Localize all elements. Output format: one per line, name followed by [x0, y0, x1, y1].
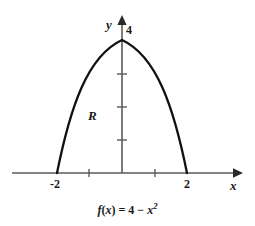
- function-minus-sign: −: [134, 203, 147, 217]
- x-tick-label-2: 2: [184, 178, 190, 190]
- y-tick-label-4: 4: [126, 24, 132, 36]
- function-term-exponent: 2: [153, 201, 157, 211]
- region-label-R: R: [88, 109, 97, 122]
- x-axis-arrowhead: [233, 168, 243, 177]
- x-tick-label-minus-2: -2: [50, 178, 60, 190]
- function-graph-figure: y x 4 -2 2 R f(x) = 4 − x2: [0, 0, 255, 226]
- function-equals-sign: =: [116, 203, 129, 217]
- function-equation-label: f(x) = 4 − x2: [0, 201, 255, 218]
- x-axis-label: x: [230, 179, 237, 192]
- y-axis-label: y: [106, 18, 112, 31]
